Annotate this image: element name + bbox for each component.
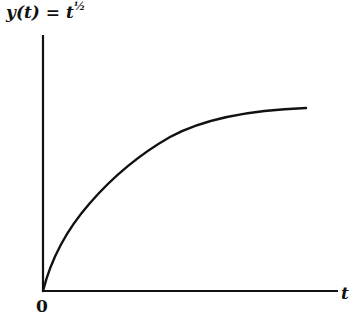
plot-area [0, 0, 355, 334]
origin-label: 0 [36, 296, 48, 316]
x-axis-label: t [341, 283, 349, 303]
sqrt-curve [43, 108, 306, 291]
